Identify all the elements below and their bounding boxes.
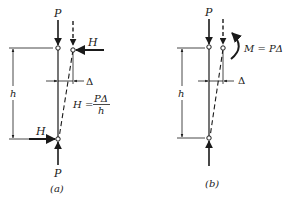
p-delta-diagram: P H h Δ H = PΔ h bbox=[0, 0, 283, 199]
panel-b: P M = PΔ h Δ (b) bbox=[177, 6, 283, 189]
node-top-a bbox=[56, 46, 60, 50]
equation-denominator-a: h bbox=[98, 105, 104, 116]
delta-label-b: Δ bbox=[238, 75, 245, 86]
load-label-top-a: P bbox=[53, 7, 62, 20]
node-top-deflected-b bbox=[221, 46, 225, 50]
horizontal-label-top-a: H bbox=[87, 36, 98, 49]
moment-label-b: M = PΔ bbox=[243, 43, 283, 54]
caption-b: (b) bbox=[205, 178, 219, 189]
moment-arc-b bbox=[231, 33, 239, 59]
column-deflected-a bbox=[59, 50, 73, 138]
load-label-top-b: P bbox=[204, 6, 213, 19]
load-label-bottom-a: P bbox=[53, 167, 62, 180]
node-bottom-a bbox=[56, 137, 60, 141]
horizontal-label-bottom-a: H bbox=[35, 125, 46, 138]
column-deflected-b bbox=[210, 49, 223, 137]
height-label-b: h bbox=[178, 88, 184, 99]
equation-lhs-a: H = bbox=[72, 99, 93, 110]
height-label-a: h bbox=[10, 88, 16, 99]
node-top-deflected-a bbox=[71, 48, 75, 52]
caption-a: (a) bbox=[50, 183, 64, 194]
diagram-svg: P H h Δ H = PΔ h bbox=[0, 0, 283, 199]
delta-label-a: Δ bbox=[86, 76, 93, 87]
panel-a: P H h Δ H = PΔ h bbox=[9, 7, 110, 194]
node-top-b bbox=[207, 45, 211, 49]
node-bottom-b bbox=[207, 136, 211, 140]
equation-numerator-a: PΔ bbox=[93, 93, 108, 104]
